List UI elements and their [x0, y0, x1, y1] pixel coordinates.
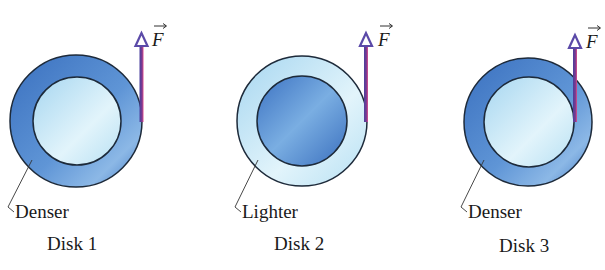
vector-arrow-icon: [588, 26, 601, 31]
force-label-text: F: [151, 29, 164, 50]
disk-3-inner-core: [484, 77, 574, 167]
disk-2-region-label: Lighter: [242, 201, 299, 222]
disk-3: [461, 35, 592, 212]
disk-diagram: F F F Denser Lighter Denser Disk 1 Disk …: [0, 0, 605, 270]
disk-3-region-label: Denser: [468, 201, 522, 222]
disk-1-name: Disk 1: [47, 233, 97, 254]
arrow-head-icon: [136, 33, 148, 46]
disk-3-force-label: F: [585, 26, 601, 53]
vector-arrow-icon: [380, 24, 393, 29]
disk-1-region-label: Denser: [15, 201, 69, 222]
disk-2-force-label: F: [377, 24, 393, 51]
disk-3-name: Disk 3: [499, 235, 549, 256]
disk-2-inner-core: [257, 76, 347, 166]
force-label-text: F: [585, 31, 598, 52]
force-label-text: F: [377, 29, 390, 50]
disk-2: [235, 33, 372, 212]
disk-1-inner-core: [33, 77, 121, 165]
arrow-head-icon: [360, 33, 372, 46]
disk-2-leader-line: [235, 160, 258, 207]
disk-1: [8, 33, 148, 212]
vector-arrow-icon: [154, 24, 167, 29]
disk-1-leader-line: [8, 160, 32, 207]
disk-3-leader-line: [461, 160, 484, 207]
disk-1-force-label: F: [151, 24, 167, 51]
arrow-head-icon: [569, 35, 581, 48]
disk-2-name: Disk 2: [274, 233, 324, 254]
